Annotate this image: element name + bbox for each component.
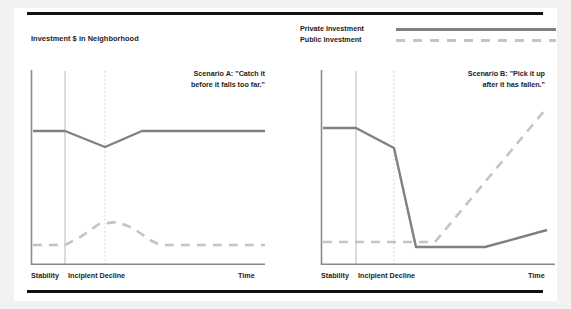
figure-container: Private Investment Public Investment Inv… <box>0 0 571 309</box>
series-line-private-investment <box>33 131 265 147</box>
series-line-private-investment <box>323 128 547 247</box>
x-axis-label-time: Time <box>528 271 545 280</box>
x-axis-label-stability: Stability <box>321 271 349 280</box>
x-axis-label-stability: Stability <box>31 271 59 280</box>
x-axis-label-incipient-decline: Incipient Decline <box>358 271 415 280</box>
panel-scenario-a: Investment $ in Neighborhood Scenario A:… <box>0 0 285 293</box>
chart-plot-scenario-a <box>0 0 285 293</box>
panel-scenario-b: Scenario B: "Pick it up after it has fal… <box>285 0 570 293</box>
x-axis-label-time: Time <box>238 271 255 280</box>
x-axis-label-incipient-decline: Incipient Decline <box>68 271 125 280</box>
chart-plot-scenario-b <box>285 0 570 293</box>
series-line-public-investment <box>33 222 265 245</box>
